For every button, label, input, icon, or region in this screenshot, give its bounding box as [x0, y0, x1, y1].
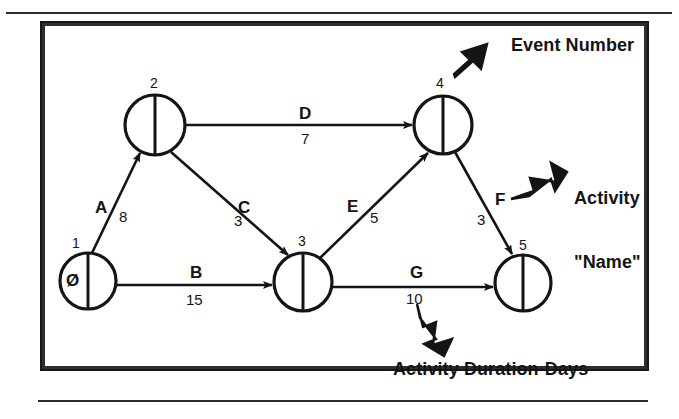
activity-f-name: F [495, 190, 505, 209]
activity-name-callout-arrow [511, 163, 567, 199]
node-1-number: 1 [72, 236, 80, 252]
activity-e-duration: 5 [370, 210, 378, 227]
node-2-number: 2 [150, 76, 158, 92]
activity-duration-callout-arrow [417, 304, 452, 356]
activity-f-duration: 3 [477, 212, 485, 229]
activity-e-name: E [347, 197, 358, 216]
activity-a-duration: 8 [119, 209, 127, 226]
figure-canvas: 1 2 3 4 5 Ø A 8 B 15 C 3 D 7 E 5 F 3 G 1… [0, 0, 679, 419]
activity-duration-callout-label: Activity Duration-Days [393, 359, 588, 379]
activity-c-arrow [171, 152, 288, 255]
activity-b-duration: 15 [186, 292, 203, 309]
node-4-number: 4 [436, 76, 444, 92]
event-number-callout-arrow [454, 44, 487, 77]
activity-g-duration: 10 [406, 291, 423, 308]
node-circles [60, 95, 551, 311]
activity-g-name: G [410, 263, 423, 282]
node-1-inner-value: Ø [66, 271, 79, 290]
activity-e-arrow [320, 153, 428, 258]
activity-name-callout-line2: "Name" [574, 252, 641, 273]
node-3-number: 3 [298, 234, 306, 250]
node-divider-lines [88, 95, 523, 311]
activity-d-name: D [299, 104, 311, 123]
activity-name-callout-label: Activity "Name" [574, 146, 641, 316]
activity-a-name: A [95, 198, 107, 217]
activity-b-name: B [190, 263, 202, 282]
activity-name-callout-line1: Activity [574, 188, 641, 209]
activity-d-duration: 7 [301, 131, 309, 148]
node-5-number: 5 [519, 238, 527, 254]
event-number-callout-label: Event Number [511, 35, 634, 55]
activity-c-duration: 3 [234, 213, 242, 230]
